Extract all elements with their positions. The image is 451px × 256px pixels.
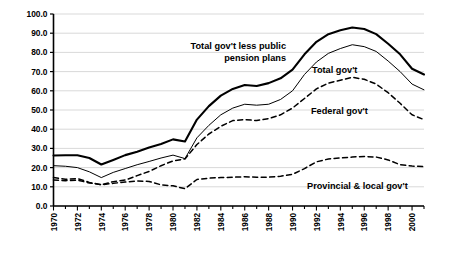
series-line-2 <box>54 77 425 185</box>
line-chart: 0.010.020.030.040.050.060.070.080.090.01… <box>0 0 451 256</box>
x-axis-tick-labels: 1970197219741976197819801982198419861988… <box>50 213 418 232</box>
provincial-local-gov-label: Provincial & local gov't <box>307 181 408 191</box>
x-tick-label: 1976 <box>121 213 130 232</box>
x-tick-label: 1972 <box>74 213 83 232</box>
y-tick-label: 20.0 <box>31 163 48 173</box>
y-tick-label: 50.0 <box>31 105 48 115</box>
y-tick-label: 70.0 <box>31 67 48 77</box>
x-tick-label: 1998 <box>384 213 393 232</box>
total-gov-less-pension-label-line2: pension plans <box>224 53 286 63</box>
x-tick-label: 1970 <box>50 213 59 232</box>
x-tick-label: 1990 <box>289 213 298 232</box>
total-gov-less-pension-label-line1: Total gov't less public <box>191 41 286 51</box>
y-tick-label: 30.0 <box>31 143 48 153</box>
chart-container: 0.010.020.030.040.050.060.070.080.090.01… <box>0 0 451 256</box>
x-tick-label: 1984 <box>217 213 226 232</box>
y-tick-label: 40.0 <box>31 124 48 134</box>
x-tick-label: 1982 <box>193 213 202 232</box>
federal-gov-label: Federal gov't <box>311 106 368 116</box>
y-tick-label: 60.0 <box>31 86 48 96</box>
x-tick-label: 1974 <box>98 213 107 232</box>
x-tick-label: 1996 <box>360 213 369 232</box>
x-tick-label: 1986 <box>241 213 250 232</box>
x-tick-label: 2000 <box>408 213 417 232</box>
y-tick-label: 90.0 <box>31 28 48 38</box>
total-gov-label: Total gov't <box>312 65 357 75</box>
y-tick-label: 0.0 <box>36 201 48 211</box>
x-tick-label: 1978 <box>145 213 154 232</box>
y-tick-label: 10.0 <box>31 182 48 192</box>
x-tick-label: 1994 <box>337 213 346 232</box>
x-tick-label: 1988 <box>265 213 274 232</box>
data-series <box>54 27 425 188</box>
x-tick-label: 1992 <box>313 213 322 232</box>
y-tick-label: 80.0 <box>31 47 48 57</box>
series-line-1 <box>54 45 425 178</box>
y-axis-tick-labels: 0.010.020.030.040.050.060.070.080.090.01… <box>27 9 48 211</box>
y-tick-label: 100.0 <box>27 9 48 19</box>
x-tick-label: 1980 <box>169 213 178 232</box>
